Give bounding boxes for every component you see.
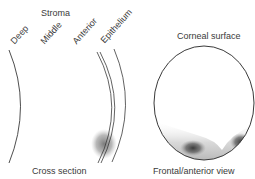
cross-section-opacity [91, 129, 117, 159]
corneal-surface-label: Corneal surface [177, 32, 241, 41]
stroma-label: Stroma [41, 9, 70, 18]
diagram-graphics [0, 0, 255, 179]
cross-section-caption: Cross section [32, 167, 87, 176]
frontal-view-caption: Frontal/anterior view [153, 167, 235, 176]
frontal-opacity-region [150, 120, 255, 170]
deep-stroma-line [9, 50, 21, 163]
diagram-canvas: Stroma Deep Middle Anterior Epithelium C… [0, 0, 255, 179]
